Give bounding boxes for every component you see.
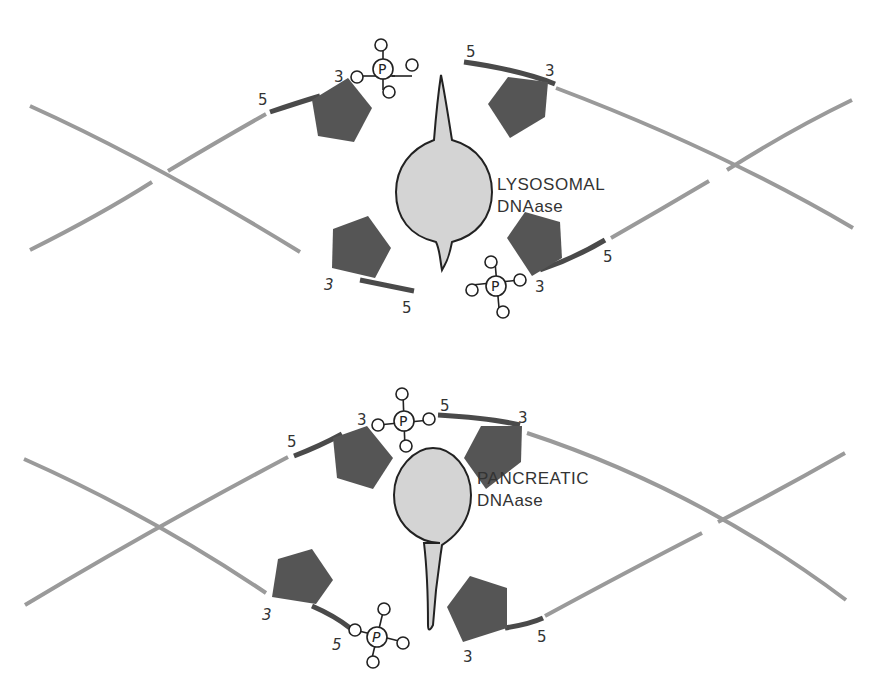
upper-right-3-prime-label: 3 (518, 409, 528, 427)
oxygen-atom (396, 388, 408, 400)
lysosomal-enzyme-label-line2: DNAase (497, 197, 563, 216)
lower-right-5-prime-label: 5 (537, 628, 547, 646)
oxygen-atom (375, 39, 387, 51)
lysosomal-panel: 5 3 P 5 3 5 3 (30, 39, 853, 318)
phosphorus-label: P (372, 629, 381, 645)
upper-left-5-prime-label: 5 (258, 91, 268, 109)
right-strand-ascending-lower (545, 533, 702, 616)
sugar-pentagon-lower-left (272, 549, 333, 604)
lower-left-3-prime-label: 3 (262, 606, 272, 624)
phosphate-group-upper: P (372, 388, 435, 452)
lower-left-strand-end (312, 606, 350, 628)
oxygen-atom (423, 413, 435, 425)
oxygen-atom (397, 637, 409, 649)
right-strand-descending (556, 88, 853, 228)
left-strand-descending (24, 459, 266, 593)
oxygen-atom (497, 306, 509, 318)
upper-right-5-prime-label: 5 (466, 43, 476, 61)
phosphate-group-lower: P (349, 603, 409, 668)
oxygen-atom (485, 256, 497, 268)
right-strand-ascending-lower (611, 181, 709, 238)
pancreatic-enzyme-label-line1: PANCREATIC (477, 469, 589, 488)
sugar-pentagon-upper-right (488, 77, 548, 138)
oxygen-atom (400, 440, 412, 452)
sugar-pentagon-upper-left (333, 426, 393, 489)
upper-left-5-prime-label: 5 (287, 433, 297, 451)
right-strand-ascending-upper (718, 453, 845, 522)
lower-right-3-prime-label: 3 (535, 278, 545, 296)
upper-left-strand-end (270, 96, 320, 112)
sugar-pentagon-lower-right (447, 576, 507, 642)
sugar-pentagon-upper-left (312, 78, 372, 142)
lower-left-5-prime-label: 5 (402, 299, 412, 317)
oxygen-atom (378, 603, 390, 615)
phosphorus-label: P (399, 413, 407, 429)
upper-right-3-prime-label: 3 (545, 62, 555, 80)
lower-left-5-prime-label: 5 (332, 636, 342, 654)
oxygen-atom (383, 86, 395, 98)
oxygen-atom (372, 419, 384, 431)
right-strand-ascending-upper (727, 100, 852, 170)
pancreatic-enzyme-label-line2: DNAase (477, 491, 543, 510)
oxygen-atom (466, 284, 478, 296)
oxygen-atom (367, 656, 379, 668)
dnaase-cleavage-diagram: 5 3 P 5 3 5 3 (0, 0, 887, 693)
phosphorus-label: P (491, 278, 499, 294)
left-strand-ascending-lower (30, 182, 152, 250)
sugar-pentagon-lower-left (332, 216, 391, 278)
lower-left-strand-end (360, 280, 414, 291)
lysosomal-dnaase-enzyme (396, 75, 492, 270)
phosphate-group-upper: P (351, 39, 418, 98)
lysosomal-enzyme-label-line1: LYSOSOMAL (497, 175, 605, 194)
oxygen-atom (514, 274, 526, 286)
left-strand-ascending-upper (168, 114, 266, 171)
upper-left-3-prime-label: 3 (357, 411, 367, 429)
upper-right-5-prime-label: 5 (440, 397, 450, 415)
lower-right-5-prime-label: 5 (603, 248, 613, 266)
oxygen-atom (406, 59, 418, 71)
phosphate-group-lower: P (466, 256, 526, 318)
lower-right-strand-end (505, 618, 543, 628)
upper-right-strand-end (438, 415, 520, 425)
lower-left-3-prime-label: 3 (324, 276, 334, 294)
upper-left-3-prime-label: 3 (334, 68, 344, 86)
right-strand-descending (527, 433, 846, 600)
pancreatic-panel: 5 3 P 5 3 5 3 3 5 (24, 388, 846, 668)
oxygen-atom (349, 624, 361, 636)
lower-right-3-prime-label: 3 (463, 648, 473, 666)
phosphorus-label: P (378, 61, 386, 77)
oxygen-atom (351, 71, 363, 83)
